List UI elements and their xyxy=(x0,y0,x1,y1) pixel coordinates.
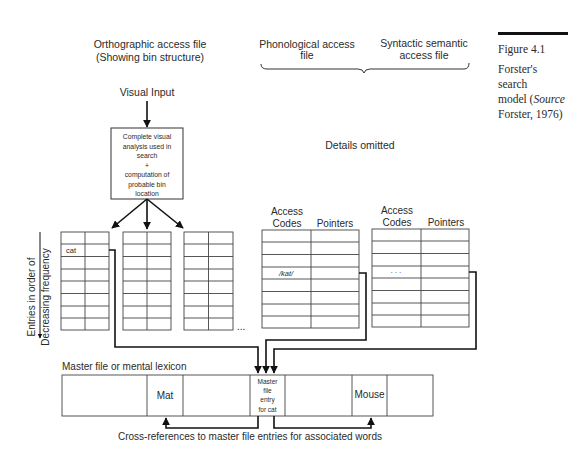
frequency-order-label: Entries in order of Decreasing frequency xyxy=(26,232,51,346)
access-table-1-col2-header: Pointers xyxy=(317,218,354,229)
access-table-2 xyxy=(372,229,469,327)
master-cell-mat: Mat xyxy=(157,390,174,401)
phonological-file-subtitle: file xyxy=(300,49,314,61)
cat-entry-line: file xyxy=(263,387,272,394)
caption-source-word: Source xyxy=(533,93,565,105)
cat-entry-line: entry xyxy=(260,396,275,404)
caption-line-2: model ( xyxy=(498,93,533,105)
analysis-line: probable bin xyxy=(128,181,166,189)
analysis-line: + xyxy=(145,162,149,169)
syntactic-file-title: Syntactic semantic xyxy=(380,37,468,49)
bin-selection-arrows xyxy=(112,199,183,229)
access-table-2-col1-header: Access xyxy=(381,205,413,216)
orthographic-file-subtitle: (Showing bin structure) xyxy=(96,51,204,63)
bin-entry-cat: cat xyxy=(66,246,77,255)
access-table-1-col1-header: Access xyxy=(271,206,303,217)
analysis-line: computation of xyxy=(125,171,170,179)
grouping-brace xyxy=(261,63,469,73)
cat-entry-line: Master xyxy=(258,378,279,385)
access-table-2-col1-header-2: Codes xyxy=(383,217,412,228)
more-bins-ellipsis: ... xyxy=(237,321,245,332)
cross-reference-arrows xyxy=(166,416,371,428)
access-table-2-col2-header: Pointers xyxy=(428,217,465,228)
orthographic-file-title: Orthographic access file xyxy=(94,38,207,50)
access-table-1 xyxy=(262,230,359,328)
access-code-kat: /kat/ xyxy=(278,269,294,278)
master-cell-mouse: Mouse xyxy=(354,389,384,400)
bin-2 xyxy=(123,232,171,330)
analysis-line: Complete visual xyxy=(123,133,172,141)
visual-input-label: Visual Input xyxy=(120,86,175,98)
analysis-line: location xyxy=(135,190,159,197)
access-table-1-col1-header-2: Codes xyxy=(273,218,302,229)
side-label-line1: Entries in order of xyxy=(26,257,37,336)
figure-caption: Figure 4.1 Forster's search model (Sourc… xyxy=(498,36,568,122)
caption-line-1: Forster's search xyxy=(498,63,537,90)
details-omitted-label: Details omitted xyxy=(325,139,395,151)
cross-reference-label: Cross-references to master file entries … xyxy=(118,431,382,442)
master-file-label: Master file or mental lexicon xyxy=(62,361,187,372)
analysis-line: search xyxy=(137,152,158,159)
caption-line-3: Forster, 1976) xyxy=(498,108,563,120)
figure-number: Figure 4.1 xyxy=(498,42,568,57)
bin-3 xyxy=(184,232,233,330)
side-label-line2: Decreasing frequency xyxy=(40,248,51,345)
syntactic-file-subtitle: access file xyxy=(399,49,448,61)
master-cell-cat-entry: Master file entry for cat xyxy=(258,378,279,413)
caption-rule xyxy=(498,32,568,35)
analysis-line: analysis used in xyxy=(123,143,172,151)
cat-entry-line: for cat xyxy=(258,406,276,413)
access-code-omitted: · · · xyxy=(391,269,402,276)
